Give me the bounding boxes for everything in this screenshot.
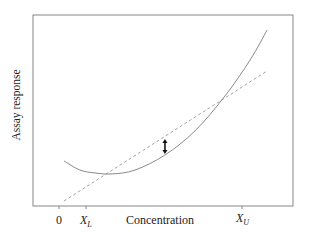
chart: 0 XL XU Concentration Assay response — [0, 0, 310, 235]
plot-frame — [33, 15, 293, 206]
tick-label-zero: 0 — [56, 213, 62, 227]
deviation-arrow — [162, 139, 167, 154]
tick-label-xu: XU — [235, 211, 250, 227]
linear-fit-line — [64, 71, 267, 201]
x-axis-label: Concentration — [126, 213, 194, 227]
tick-label-xl: XL — [79, 213, 92, 229]
y-axis-label: Assay response — [10, 69, 23, 140]
